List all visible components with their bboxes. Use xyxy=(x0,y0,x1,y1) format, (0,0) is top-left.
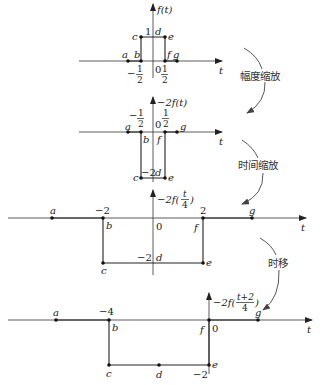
tick-pos-numer: 1 xyxy=(163,108,169,118)
point-g: g xyxy=(249,205,255,216)
svg-text:4: 4 xyxy=(242,303,248,313)
t-axis-label: t xyxy=(301,222,306,233)
point-a: a xyxy=(50,205,56,216)
point-d: d xyxy=(155,167,161,178)
point-a: a xyxy=(122,49,128,60)
point-f: f xyxy=(156,134,163,145)
transform-arrow-time-scaling: 时间缩放 xyxy=(238,140,279,204)
plot-neg2-f-t-plus-2-over-4: t −2f( t+2 4 ) a b c d e f g −2 −4 0 xyxy=(8,292,312,380)
tick-pos-denom: 2 xyxy=(163,119,169,129)
plot-title: −2f( t 4 ) xyxy=(157,189,194,210)
point-e: e xyxy=(168,31,174,42)
point-f: f xyxy=(199,324,206,335)
level-label: 1 xyxy=(145,26,151,37)
t-axis-label: t xyxy=(307,324,312,335)
tick-neg-numer: 1 xyxy=(138,108,144,118)
svg-text:): ) xyxy=(189,194,194,205)
point-c: c xyxy=(132,31,138,42)
plot-neg2-f-t-over-4: t −2f( t 4 ) a b c d e f g −2 −2 0 2 xyxy=(8,189,306,276)
t-axis-label: t xyxy=(219,136,224,147)
tick-pos-numer: 1 xyxy=(162,64,168,74)
plot-title: −2f(t) xyxy=(157,97,187,108)
tick-neg-sign: − xyxy=(127,68,135,79)
signal-waveform xyxy=(56,320,258,365)
signal-transform-diagram: t f(t) a b c d e f g 1 − 1 2 0 1 2 幅度缩放 … xyxy=(0,0,324,385)
transform-label-time-scaling: 时间缩放 xyxy=(238,159,279,171)
point-g: g xyxy=(180,121,186,132)
signal-points xyxy=(50,216,254,265)
point-b: b xyxy=(106,220,112,231)
point-b: b xyxy=(112,322,118,333)
signal-points xyxy=(54,318,260,367)
point-c: c xyxy=(106,368,112,379)
tick-origin: 0 xyxy=(155,64,161,75)
point-e: e xyxy=(212,359,218,370)
point-d: d xyxy=(156,369,162,380)
tick-neg2: −2 xyxy=(95,205,110,216)
point-e: e xyxy=(168,172,174,183)
point-b: b xyxy=(143,134,149,145)
transform-label-amplitude-scaling: 幅度缩放 xyxy=(240,70,281,82)
tick-pos2: 2 xyxy=(200,205,206,216)
tick-neg-denom: 2 xyxy=(137,75,143,85)
t-axis-label: t xyxy=(219,65,224,76)
transform-label-time-shift: 时移 xyxy=(268,257,289,269)
point-c: c xyxy=(101,265,107,276)
point-f: f xyxy=(193,222,200,233)
point-d: d xyxy=(155,26,161,37)
svg-text:4: 4 xyxy=(182,200,188,210)
tick-neg-sign: − xyxy=(129,110,137,121)
point-a: a xyxy=(53,307,59,318)
tick-neg-denom: 2 xyxy=(138,119,144,129)
plot-neg2-f-t: t −2f(t) a b c d e f g −2 − 1 2 0 1 2 xyxy=(79,97,224,183)
plot-f-t: t f(t) a b c d e f g 1 − 1 2 0 1 2 xyxy=(79,4,224,85)
diagram-svg: t f(t) a b c d e f g 1 − 1 2 0 1 2 幅度缩放 … xyxy=(0,0,324,385)
point-g: g xyxy=(173,49,179,60)
plot-title: f(t) xyxy=(156,4,173,15)
tick-neg-numer: 1 xyxy=(137,64,143,74)
point-e: e xyxy=(206,257,212,268)
plot-title: −2f( t+2 4 ) xyxy=(213,292,259,313)
svg-text:−2f(: −2f( xyxy=(157,194,180,205)
transform-arrow-time-shift: 时移 xyxy=(260,238,289,310)
point-b: b xyxy=(134,49,140,60)
level-label: −2 xyxy=(141,167,156,178)
point-d: d xyxy=(156,252,162,263)
level-label: −2 xyxy=(193,369,208,380)
point-c: c xyxy=(133,172,139,183)
level-label: −2 xyxy=(137,252,152,263)
tick-origin: 0 xyxy=(155,119,161,130)
svg-text:t: t xyxy=(183,189,187,199)
signal-waveform xyxy=(52,218,252,263)
point-f: f xyxy=(166,49,173,60)
transform-arrow-amplitude: 幅度缩放 xyxy=(240,48,281,113)
tick-pos-denom: 2 xyxy=(162,75,168,85)
point-a: a xyxy=(125,121,131,132)
tick-neg4: −4 xyxy=(99,306,114,317)
tick-origin: 0 xyxy=(212,323,218,334)
point-g: g xyxy=(255,307,261,318)
svg-text:t+2: t+2 xyxy=(237,292,254,302)
tick-origin: 0 xyxy=(156,221,162,232)
svg-text:−2f(: −2f( xyxy=(213,297,236,308)
